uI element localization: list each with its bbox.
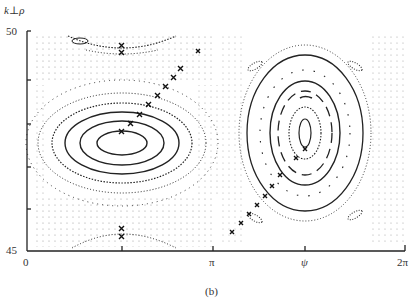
right-island-orbits [239, 45, 371, 225]
phase-portrait-plot [0, 0, 416, 302]
chaotic-points [32, 34, 404, 247]
left-island-orbits [26, 80, 218, 206]
